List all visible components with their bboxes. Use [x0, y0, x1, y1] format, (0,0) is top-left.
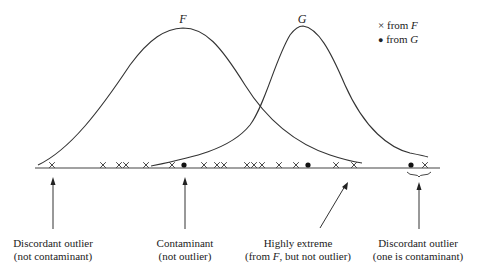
curve-label-f: F — [179, 12, 186, 27]
cross-marker — [259, 162, 265, 168]
cross-marker — [221, 162, 227, 168]
observations — [49, 162, 428, 168]
curve-label-g: G — [298, 12, 307, 27]
legend-item-g: ● from G — [378, 32, 418, 47]
density-curve-g — [151, 26, 428, 166]
cross-marker — [351, 162, 357, 168]
cross-marker — [116, 162, 122, 168]
arrow-highly-extreme — [320, 182, 348, 228]
cross-marker — [123, 162, 129, 168]
dot-marker — [181, 162, 186, 167]
cross-marker — [276, 162, 282, 168]
cross-marker — [251, 162, 257, 168]
cross-marker — [49, 162, 55, 168]
arrow-discordant-outlier-pair — [417, 182, 422, 229]
cross-marker — [244, 162, 250, 168]
legend-item-f: × from F — [378, 18, 418, 32]
cross-marker — [422, 162, 428, 168]
cross-icon: × — [378, 19, 384, 31]
cross-marker — [214, 162, 220, 168]
cross-marker — [293, 162, 299, 168]
dot-icon: ● — [378, 35, 383, 45]
legend: × from F ● from G — [378, 18, 418, 47]
arrow-discordant-outlier — [51, 177, 56, 229]
annotation-discordant-outlier: Discordant outlier (not contaminant) — [13, 237, 93, 263]
density-curve-f — [38, 28, 362, 165]
arrow-contaminant — [183, 177, 188, 229]
cross-marker — [100, 162, 106, 168]
cross-marker — [333, 162, 339, 168]
annotation-highly-extreme: Highly extreme (from F, but not outlier) — [245, 237, 351, 263]
cross-marker — [169, 162, 175, 168]
cross-marker — [143, 162, 149, 168]
annotation-discordant-outlier-pair: Discordant outlier (one is contaminant) — [373, 237, 463, 263]
brace — [407, 172, 431, 177]
annotation-contaminant: Contaminant (not outlier) — [157, 237, 214, 263]
cross-marker — [201, 162, 207, 168]
dot-marker — [305, 162, 310, 167]
dot-marker — [408, 162, 413, 167]
